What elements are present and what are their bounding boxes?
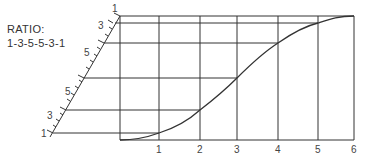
x-tick-2: 2	[197, 144, 203, 155]
scale-label-3b: 3	[47, 110, 53, 121]
scale-label-bottom-1: 1	[41, 128, 47, 139]
ratio-diagram: 1 3 5 5 3 1 1 2 3 4 5 6	[0, 0, 370, 160]
x-tick-6: 6	[351, 144, 357, 155]
x-tick-1: 1	[156, 144, 162, 155]
x-tick-5: 5	[315, 144, 321, 155]
scale-label-3: 3	[98, 20, 104, 31]
diagonal-ticks	[47, 13, 120, 133]
x-tick-3: 3	[234, 144, 240, 155]
x-tick-4: 4	[275, 144, 281, 155]
scale-label-top-1: 1	[112, 3, 118, 14]
scale-label-5: 5	[84, 47, 90, 58]
scale-label-5b: 5	[65, 86, 71, 97]
diagonal-scale-axis	[50, 16, 120, 137]
